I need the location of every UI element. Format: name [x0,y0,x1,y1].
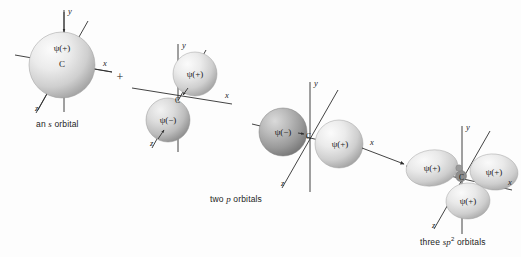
caption-sp2-suffix: orbitals [454,237,485,247]
p1-y-axis-label: y [181,40,186,50]
p2-y-axis-label: y [313,78,318,88]
s-orbital-y-axis-label: y [67,6,72,16]
sp2-y-axis-label: y [465,122,470,132]
s-orbital-atom-label: C [59,59,65,69]
p1-upper-psi-label: ψ(+) [187,69,204,79]
caption-s-orbital: an s orbital [36,119,79,129]
p2-left-psi-label: ψ(−) [275,127,292,137]
two-p-orbitals-group-1: ψ(+) ψ(−) C y x z [132,40,232,152]
sp2-carbon-core-back [456,165,462,171]
caption-sp2-orbitals: three sp2 orbitals [420,236,486,247]
s-orbital-group: ψ(+) C y x z [15,6,112,113]
sp2-z-axis-label: z [431,220,436,230]
caption-p-prefix: two [210,194,226,204]
sp2-bottom-psi-label: ψ(+) [460,196,477,206]
sp2-atom-label: C [459,173,464,182]
sp2-left-psi-label: ψ(+) [424,163,441,173]
s-orbital-x-axis-label: x [102,58,107,68]
caption-s-suffix: orbital [52,119,79,129]
p1-z-axis-label: z [149,138,154,148]
p1-x-axis-label: x [224,90,229,100]
sp2-orbitals-group: ψ(+) ψ(+) ψ(+) C y x z [404,122,520,234]
p2-atom-label: C [306,132,311,141]
p2-right-psi-label: ψ(+) [332,139,349,149]
p2-z-axis-label: z [280,178,285,188]
orbital-hybridization-figure: ψ(+) C y x z + ψ(+) ψ(−) C y x z [0,0,521,257]
caption-sp2-prefix: three [420,237,443,247]
caption-sp2-italic: sp [443,237,451,247]
p1-atom-label: C [175,96,180,105]
two-p-orbitals-group-2: ψ(−) ψ(+) C y x z [252,78,374,192]
plus-operator: + [117,70,124,84]
s-orbital-z-axis-label: z [34,103,39,113]
transformation-arrow [362,148,404,164]
caption-p-suffix: orbitals [231,194,262,204]
s-orbital-psi-label: ψ(+) [54,43,71,53]
caption-p-orbitals: two p orbitals [210,194,262,204]
p2-x-axis-label: x [369,137,374,147]
sp2-right-psi-label: ψ(+) [486,167,503,177]
caption-s-prefix: an [36,119,48,129]
p1-lower-psi-label: ψ(−) [160,115,177,125]
sp2-x-axis-label: x [507,177,512,187]
